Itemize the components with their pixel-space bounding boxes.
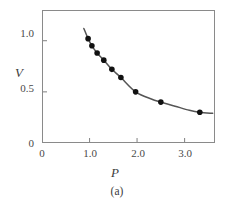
y-axis-title: V (15, 66, 23, 79)
data-point-marker (109, 67, 115, 73)
y-tick-label-0.5: 0.5 (6, 83, 34, 94)
data-point-marker (118, 75, 124, 81)
fitted-curve (84, 28, 213, 113)
figure-caption: (a) (0, 186, 234, 198)
x-tick-label-2.0: 2.0 (124, 148, 152, 159)
x-tick-label-3.0: 3.0 (171, 148, 199, 159)
data-point-marker (89, 43, 95, 49)
data-point-marker (133, 89, 139, 95)
figure-panel: 1.0 0.5 0 0 1.0 2.0 3.0 V P (a) (0, 0, 234, 207)
data-point-marker (94, 50, 100, 56)
x-tick-label-0: 0 (32, 148, 52, 159)
x-tick-label-1.0: 1.0 (76, 148, 104, 159)
data-point-marker (197, 110, 203, 116)
data-point-marker (101, 57, 107, 63)
y-tick-label-0: 0 (6, 138, 34, 149)
x-axis-title: P (111, 166, 119, 179)
y-tick-label-1.0: 1.0 (6, 28, 34, 39)
data-point-marker (158, 99, 164, 105)
data-point-marker (85, 36, 91, 42)
